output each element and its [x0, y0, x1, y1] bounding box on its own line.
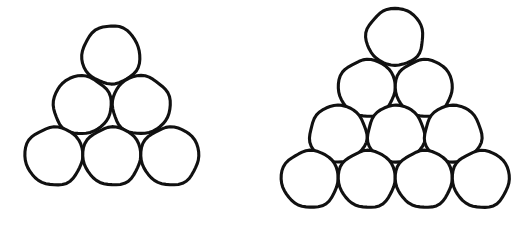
circle-L-r3-c1: [25, 127, 83, 185]
circle-packing-figure: [0, 0, 532, 231]
circle-L-r3-c2: [83, 127, 141, 185]
circle-R-r1-c1: [366, 8, 423, 65]
circle-R-r4-c2: [338, 150, 395, 207]
circle-R-r4-c3: [395, 150, 452, 207]
circle-R-r4-c4: [452, 150, 509, 207]
circle-L-r3-c3: [141, 127, 199, 185]
circle-L-r2-c1: [53, 75, 111, 133]
circle-L-r1-c1: [82, 26, 140, 84]
circle-R-r4-c1: [281, 150, 338, 207]
circle-L-r2-c2: [112, 75, 170, 133]
